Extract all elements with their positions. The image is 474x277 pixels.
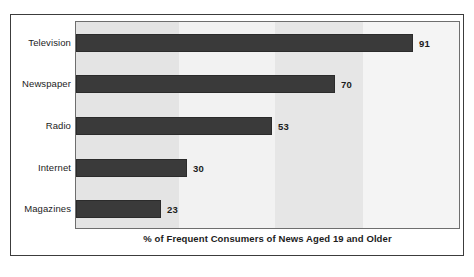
bar-internet[interactable] bbox=[76, 159, 187, 177]
chart-figure: Television Newspaper Radio Internet Maga… bbox=[0, 0, 474, 277]
bar-value-newspaper: 70 bbox=[341, 79, 352, 90]
category-label-internet: Internet bbox=[11, 161, 71, 172]
bar-newspaper[interactable] bbox=[76, 75, 335, 93]
category-label-radio: Radio bbox=[11, 120, 71, 131]
bar-value-television: 91 bbox=[419, 37, 430, 48]
bar-value-radio: 53 bbox=[278, 121, 289, 132]
chart-panel: Television Newspaper Radio Internet Maga… bbox=[10, 14, 464, 256]
category-label-newspaper: Newspaper bbox=[11, 78, 71, 89]
caption-sliver bbox=[12, 270, 312, 277]
bar-magazines[interactable] bbox=[76, 200, 161, 218]
x-axis-title: % of Frequent Consumers of News Aged 19 … bbox=[75, 233, 460, 244]
category-axis: Television Newspaper Radio Internet Maga… bbox=[11, 21, 71, 229]
bar-value-internet: 30 bbox=[193, 162, 204, 173]
bar-radio[interactable] bbox=[76, 117, 272, 135]
category-label-magazines: Magazines bbox=[11, 203, 71, 214]
bar-television[interactable] bbox=[76, 34, 413, 52]
background-band-4 bbox=[363, 22, 459, 228]
plot-area: 91 70 53 30 23 bbox=[75, 21, 460, 229]
category-label-television: Television bbox=[11, 36, 71, 47]
bar-value-magazines: 23 bbox=[167, 204, 178, 215]
